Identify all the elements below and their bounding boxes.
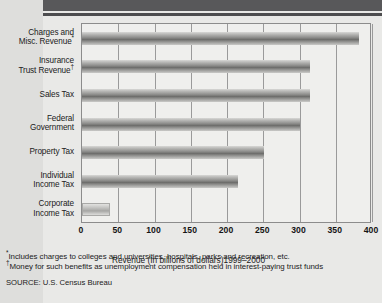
x-tick-label: 200 bbox=[219, 225, 233, 235]
gridline bbox=[336, 24, 337, 222]
gridline bbox=[300, 24, 301, 222]
bar bbox=[82, 146, 264, 159]
category-label-line: Income Tax bbox=[0, 209, 74, 218]
source-line: SOURCE: U.S. Census Bureau bbox=[6, 278, 380, 287]
category-label-line: Misc. Revenue* bbox=[0, 37, 74, 46]
category-label-line: Federal bbox=[0, 114, 74, 123]
bar bbox=[82, 118, 300, 131]
bar bbox=[82, 60, 310, 73]
x-axis-tick-labels: 050100150200250300350400 bbox=[81, 225, 371, 237]
footnote-2: †Money for such benefits as unemployment… bbox=[6, 262, 380, 272]
category-label-line: Individual bbox=[0, 171, 74, 180]
category-label-line: Insurance bbox=[0, 56, 74, 65]
chart-page: Charges andMisc. Revenue*InsuranceTrust … bbox=[0, 0, 382, 303]
header-band bbox=[43, 0, 382, 11]
category-labels: Charges andMisc. Revenue*InsuranceTrust … bbox=[0, 23, 74, 223]
bar bbox=[82, 203, 110, 216]
header-rule bbox=[43, 13, 382, 16]
category-label-line: Trust Revenue† bbox=[0, 66, 74, 75]
bar bbox=[82, 175, 238, 188]
x-tick-label: 400 bbox=[364, 225, 378, 235]
category-label: FederalGovernment bbox=[0, 114, 74, 133]
x-tick-label: 0 bbox=[79, 225, 84, 235]
category-label: InsuranceTrust Revenue† bbox=[0, 56, 74, 75]
category-label-line: Government bbox=[0, 123, 74, 132]
category-label-line: Sales Tax bbox=[0, 90, 74, 99]
footnote-1-text: Includes charges to colleges and univers… bbox=[8, 252, 289, 261]
footnote-1: *Includes charges to colleges and univer… bbox=[6, 252, 380, 262]
category-label: IndividualIncome Tax bbox=[0, 171, 74, 190]
x-tick-label: 150 bbox=[183, 225, 197, 235]
footnote-marker: * bbox=[72, 35, 74, 42]
x-tick-label: 50 bbox=[112, 225, 122, 235]
category-label: Property Tax bbox=[0, 147, 74, 156]
bar bbox=[82, 32, 359, 45]
x-tick-label: 250 bbox=[255, 225, 269, 235]
category-label-line: Charges and bbox=[0, 28, 74, 37]
x-tick-label: 300 bbox=[291, 225, 305, 235]
footnotes: *Includes charges to colleges and univer… bbox=[6, 252, 380, 287]
gridline bbox=[372, 24, 373, 222]
category-label-line: Corporate bbox=[0, 199, 74, 208]
footnote-2-text: Money for such benefits as unemployment … bbox=[9, 262, 323, 271]
category-label: Charges andMisc. Revenue* bbox=[0, 28, 74, 47]
footnote-marker: † bbox=[71, 63, 74, 70]
plot-frame bbox=[81, 23, 371, 223]
chart-area: Charges andMisc. Revenue*InsuranceTrust … bbox=[0, 18, 382, 233]
category-label: CorporateIncome Tax bbox=[0, 199, 74, 218]
category-label-line: Income Tax bbox=[0, 180, 74, 189]
x-tick-label: 350 bbox=[328, 225, 342, 235]
bar bbox=[82, 89, 310, 102]
x-tick-label: 100 bbox=[146, 225, 160, 235]
category-label-line: Property Tax bbox=[0, 147, 74, 156]
category-label: Sales Tax bbox=[0, 90, 74, 99]
